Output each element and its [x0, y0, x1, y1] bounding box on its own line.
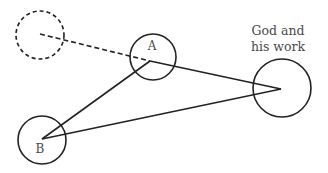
edge-a-to-god [150, 61, 281, 89]
node-a-label: A [147, 39, 157, 53]
diagram-canvas: A B God and his work [0, 0, 328, 173]
node-b-label: B [36, 142, 45, 156]
node-god-label-line2: his work [251, 39, 306, 54]
node-b-circle [18, 116, 66, 164]
node-god-circle [253, 59, 311, 117]
node-god-label-line1: God and [252, 23, 305, 38]
node-prior-dashed-circle [16, 11, 64, 59]
edge-prior-to-a [40, 34, 150, 61]
